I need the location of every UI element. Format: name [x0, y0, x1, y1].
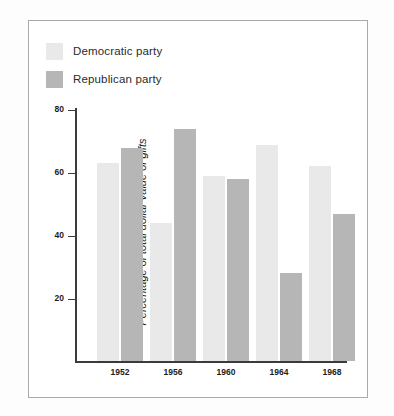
y-tick-20: 20	[68, 299, 75, 300]
legend-item-republican: Republican party	[46, 68, 236, 90]
y-tick-label-40: 40	[55, 230, 64, 240]
bar-democratic-1952	[97, 163, 119, 361]
bar-democratic-1964	[256, 145, 278, 361]
y-tick-80: 80	[68, 110, 75, 111]
chart-figure: Democratic party Republican party 80 60 …	[0, 0, 394, 416]
legend-swatch-democratic	[46, 43, 63, 60]
bar-group-1952: 1952	[97, 108, 147, 361]
bar-group-1960: 1960	[203, 108, 253, 361]
legend-item-democratic: Democratic party	[46, 40, 236, 62]
bar-republican-1968	[333, 214, 355, 361]
x-axis-line	[75, 361, 347, 363]
plot-area: 80 60 40 20 Percentage of total dollar v…	[75, 108, 347, 363]
chart-legend: Democratic party Republican party	[46, 40, 236, 96]
x-tick-label-1964: 1964	[251, 367, 307, 377]
legend-label-democratic: Democratic party	[73, 45, 162, 57]
y-tick-label-20: 20	[55, 293, 64, 303]
y-axis-line	[75, 108, 77, 363]
bar-republican-1952	[121, 148, 143, 361]
x-tick-label-1960: 1960	[198, 367, 254, 377]
x-tick-label-1956: 1956	[145, 367, 201, 377]
bar-group-1956: 1956	[150, 108, 200, 361]
bar-democratic-1956	[150, 223, 172, 361]
y-tick-label-80: 80	[55, 104, 64, 114]
bar-republican-1960	[227, 179, 249, 361]
legend-swatch-republican	[46, 71, 63, 88]
x-tick-label-1952: 1952	[92, 367, 148, 377]
bar-group-1964: 1964	[256, 108, 306, 361]
bar-group-1968: 1968	[309, 108, 359, 361]
y-tick-40: 40	[68, 236, 75, 237]
y-tick-60: 60	[68, 173, 75, 174]
x-tick-label-1968: 1968	[304, 367, 360, 377]
bar-republican-1956	[174, 129, 196, 361]
y-tick-label-60: 60	[55, 167, 64, 177]
bar-democratic-1960	[203, 176, 225, 361]
bar-democratic-1968	[309, 166, 331, 361]
legend-label-republican: Republican party	[73, 73, 162, 85]
bar-republican-1964	[280, 273, 302, 361]
